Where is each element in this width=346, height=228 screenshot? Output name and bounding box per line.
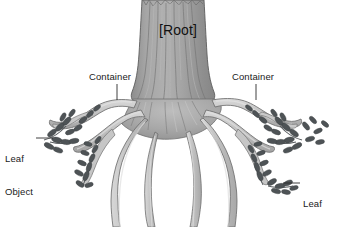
label-leaf-object-left-line1: Leaf <box>5 153 33 164</box>
trunk-body <box>131 0 215 104</box>
lateral-roots-right <box>200 99 302 228</box>
label-leaf-object-right-line1: Leaf <box>303 198 331 209</box>
label-leaf-object-left-line2: Object <box>5 186 33 197</box>
label-leaf-object-right: Leaf Object <box>303 176 331 227</box>
label-container-right: Container <box>232 71 274 82</box>
root-branch-right-lower <box>200 118 237 227</box>
page-title: [Root] <box>159 22 197 38</box>
trunk-group <box>131 0 215 104</box>
label-leaf-object-left: Leaf Object <box>5 131 33 219</box>
root-container-leaf-diagram: [Root] Container Container Leaf Object L… <box>0 0 346 227</box>
center-roots <box>145 131 202 227</box>
label-container-left: Container <box>89 71 131 82</box>
root-center-highlights <box>150 135 194 227</box>
